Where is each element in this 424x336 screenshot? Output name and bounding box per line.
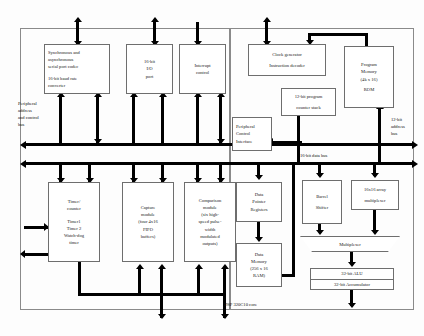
peripheral-bus-label-2: address [18, 107, 39, 114]
program-memory-address-stem [378, 108, 381, 164]
data-pointer-line-3: Registers [250, 206, 267, 213]
serial-port-line-5: 16-bit baud rate [48, 75, 77, 82]
program-memory-line-1: Program [361, 61, 377, 68]
io-port-top-arrowhead-up [151, 17, 159, 22]
timer-line-2: counter [67, 205, 81, 212]
bottom-feedback-bus [78, 293, 226, 296]
timer-output-stem [78, 262, 81, 296]
clock-gen-top-arrowhead-up [263, 17, 271, 22]
block-data-pointer-registers[interactable]: Data Pointer Registers [236, 182, 282, 222]
bottom-exit-stem-right [223, 268, 226, 318]
timer-line-7: timer [69, 239, 79, 246]
block-capture-module[interactable]: Capture module (four 4x16 FIFO buffers) [122, 182, 174, 262]
pc-stack-line-1: 12-bit program [295, 93, 323, 100]
block-comparison-module[interactable]: Comparison module (six high- speed pulse… [184, 182, 236, 262]
data-pointer-line-2: Pointer [252, 198, 265, 205]
data-memory-line-2: Memory [251, 258, 267, 265]
block-clock-generator[interactable]: Clock generator Instruction decoder [248, 44, 326, 76]
data-pointer-to-memory-stem [257, 222, 260, 238]
serial-port-bus-stem-b [96, 96, 99, 144]
block-alu-accumulator[interactable]: 32-bit ALU 32-bit Accumulator [310, 268, 394, 290]
block-io-port[interactable]: 16-bit I/O port [126, 44, 173, 94]
block-interrupt-control[interactable]: Interrupt control [179, 44, 226, 94]
accumulator-row: 32-bit Accumulator [311, 279, 393, 290]
timer-line-6: Watch-dog [64, 232, 84, 239]
comparison-line-5: width [205, 226, 215, 233]
serial-port-top-arrowhead-up [74, 17, 82, 22]
block-array-multiplier[interactable]: 16x16 array multiplexer [351, 180, 399, 210]
bottom-exit-arrow-right-down [221, 314, 229, 319]
bottom-exit-stem-center [160, 268, 163, 318]
interrupt-bus-stem-b [219, 96, 222, 144]
serial-port-bus-arrow-b-down [94, 139, 102, 144]
block-program-memory[interactable]: Program Memory (4k x 16) ROM [344, 46, 394, 108]
array-multiplier-to-mux-stem [373, 210, 376, 232]
block-diagram-canvas: Synchronous and asynchronous serial port… [0, 0, 424, 336]
peripheral-bus-label-1: Peripheral [18, 100, 39, 107]
program-memory-line-3: (4k x 16) [361, 76, 378, 83]
io-port-line-3: port [146, 73, 153, 80]
data-memory-line-3: (256 x 16 [250, 265, 268, 272]
serial-port-line-2: asynchronous [48, 56, 73, 63]
io-port-bus-stem-a [132, 96, 135, 144]
mux-to-alu-arrow [348, 262, 356, 267]
capture-line-3: (four 4x16 [138, 218, 158, 225]
capture-line-4: FIFO [143, 226, 153, 233]
serial-port-bus-stem-a [59, 96, 62, 144]
serial-port-line-1: Synchronous and [48, 49, 80, 56]
array-multiplier-line-1: 16x16 array [364, 186, 386, 193]
peripheral-bus-label-3: and control [18, 114, 39, 121]
block-data-memory[interactable]: Data Memory (256 x 16 RAM) [236, 243, 282, 287]
comparison-line-1: Comparison [199, 197, 221, 204]
capture-feedback-arrow [136, 264, 144, 269]
data-memory-return-horizontal [280, 274, 294, 277]
data-memory-line-1: Data [255, 251, 264, 258]
data-bus-label: 16-bit data bus [300, 152, 327, 159]
barrel-shifter-bus-arrow [316, 173, 324, 178]
timer-external-output-line [24, 253, 48, 256]
capture-feedback-stem [138, 268, 141, 295]
io-port-line-1: 16-bit [144, 58, 155, 65]
block-timer-counter[interactable]: Timer/ counter Timer1 Timer 2 Watch-dog … [48, 182, 100, 262]
barrel-shifter-line-1: Barrel [316, 193, 327, 200]
clock-gen-line-2: Instruction decoder [269, 62, 305, 69]
data-pointer-line-1: Data [255, 191, 264, 198]
bottom-exit-arrow-center-down [158, 314, 166, 319]
alu-output-arrow [348, 303, 356, 308]
capture-line-2: module [141, 211, 155, 218]
comparison-line-2: module [203, 204, 217, 211]
comparison-line-4: speed pulse- [199, 218, 222, 225]
core-caption-text: DSP 320C10 core [224, 301, 257, 308]
program-memory-line-4: ROM [364, 86, 374, 93]
interrupt-bus-stem-a [196, 96, 199, 144]
bottom-exit-arrow-center-up [158, 264, 166, 269]
address-bus-label: 12-bit address bus [391, 116, 405, 137]
block-pc-stack[interactable]: 12-bit program counter stack [281, 88, 336, 116]
address-bus-label-1: 12-bit [391, 116, 405, 123]
io-port-line-2: I/O [146, 65, 152, 72]
pc-stack-line-2: counter stack [296, 104, 320, 111]
array-multiplier-line-2: multiplexer [364, 197, 385, 204]
array-multiplier-to-mux-arrow [371, 230, 379, 235]
peripheral-ctrl-line-3: Interface [236, 138, 252, 145]
comparison-line-3: (six high- [201, 211, 219, 218]
peripheral-bus-label: Peripheral address and control bus [18, 100, 39, 128]
data-pointer-bus-arrow [255, 175, 263, 180]
multiplexer-shape: Multiplexer [300, 236, 400, 252]
peripheral-ctrl-line-1: Peripheral [236, 123, 255, 130]
core-caption: DSP 320C10 core [224, 301, 257, 308]
data-memory-return-stem [292, 165, 295, 277]
array-multiplier-bus-arrow [371, 173, 379, 178]
comparison-line-6: modulated [200, 233, 219, 240]
block-serial-port-codec[interactable]: Synchronous and asynchronous serial port… [44, 44, 110, 94]
alu-label: 32-bit ALU [341, 271, 362, 276]
block-multiplexer[interactable]: Multiplexer [300, 236, 400, 252]
program-memory-line-2: Memory [361, 68, 377, 75]
alu-row: 32-bit ALU [311, 269, 393, 279]
block-peripheral-control-interface[interactable]: Peripheral Control Interface [232, 117, 272, 151]
serial-port-line-6: converter [48, 82, 65, 89]
timer-line-4: Timer1 [67, 218, 80, 225]
data-memory-line-4: RAM) [253, 272, 265, 279]
block-barrel-shifter[interactable]: Barrel Shifter [302, 180, 342, 224]
capture-line-1: Capture [141, 204, 156, 211]
